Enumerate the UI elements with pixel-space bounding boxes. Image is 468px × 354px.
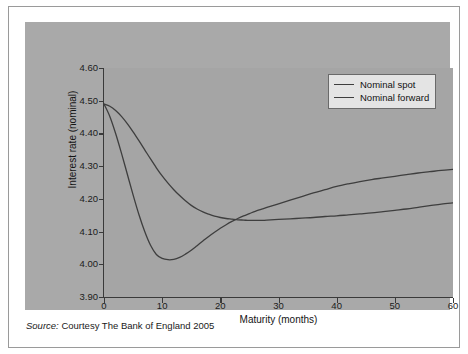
legend-line-swatch-icon bbox=[334, 97, 354, 98]
y-tick-label: 4.40 bbox=[80, 128, 99, 138]
x-tick-label: 0 bbox=[101, 301, 106, 311]
legend-item-label: Nominal spot bbox=[360, 79, 415, 91]
y-axis-tick bbox=[99, 101, 104, 102]
y-axis-tick bbox=[99, 68, 104, 69]
figure-border-top bbox=[8, 6, 460, 7]
chart-legend: Nominal spot Nominal forward bbox=[328, 74, 436, 109]
chart-panel: 3.904.004.104.204.304.404.504.60 Interes… bbox=[25, 22, 450, 310]
x-tick-label: 40 bbox=[331, 301, 342, 311]
figure-border-left bbox=[8, 6, 9, 348]
y-axis-tick bbox=[99, 264, 104, 265]
x-tick-label: 50 bbox=[390, 301, 401, 311]
y-axis-title: Interest rate (nominal) bbox=[67, 50, 78, 230]
legend-item-nominal-forward: Nominal forward bbox=[334, 91, 429, 104]
y-tick-label: 4.10 bbox=[80, 227, 99, 237]
y-tick-label: 4.20 bbox=[80, 194, 99, 204]
figure-root: 3.904.004.104.204.304.404.504.60 Interes… bbox=[0, 0, 468, 354]
y-tick-label: 4.50 bbox=[80, 96, 99, 106]
y-tick-label: 4.30 bbox=[80, 161, 99, 171]
y-axis-tick bbox=[99, 133, 104, 134]
y-tick-label: 3.90 bbox=[80, 292, 99, 302]
x-tick-label: 30 bbox=[273, 301, 284, 311]
series-line-nominal-forward bbox=[104, 104, 453, 260]
source-caption: Source: Courtesy The Bank of England 200… bbox=[26, 320, 214, 331]
legend-item-nominal-spot: Nominal spot bbox=[334, 78, 429, 91]
figure-border-bottom bbox=[8, 347, 460, 348]
source-text: Courtesy The Bank of England 2005 bbox=[61, 320, 214, 331]
y-axis-tick bbox=[99, 232, 104, 233]
figure-border-right bbox=[459, 6, 460, 348]
legend-item-label: Nominal forward bbox=[360, 92, 429, 104]
x-tick-label: 60 bbox=[448, 301, 459, 311]
series-line-nominal-spot bbox=[104, 104, 453, 220]
x-tick-label: 10 bbox=[157, 301, 168, 311]
source-label: Source: bbox=[26, 320, 59, 331]
y-tick-label: 4.60 bbox=[80, 63, 99, 73]
x-axis-tick-labels: 0102030405060 bbox=[104, 301, 453, 313]
x-tick-label: 20 bbox=[215, 301, 226, 311]
y-axis-tick bbox=[99, 166, 104, 167]
y-tick-label: 4.00 bbox=[80, 259, 99, 269]
legend-line-swatch-icon bbox=[334, 84, 354, 85]
y-axis-tick bbox=[99, 199, 104, 200]
